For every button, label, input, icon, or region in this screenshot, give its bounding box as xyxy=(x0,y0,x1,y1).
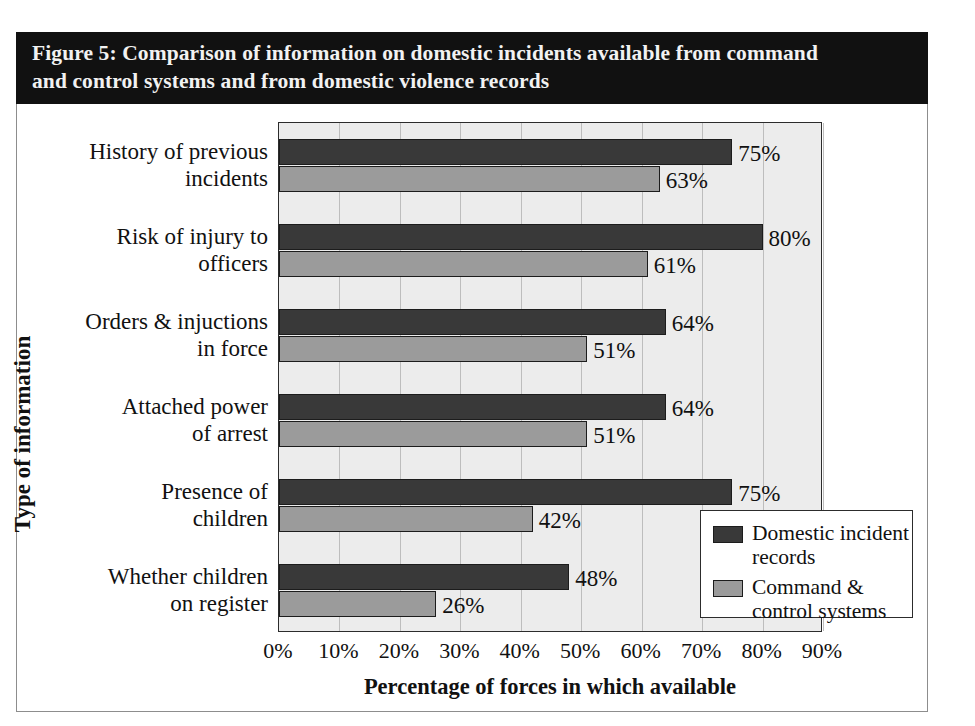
bar-value-label: 26% xyxy=(442,594,484,617)
gridline xyxy=(400,123,401,631)
bar-value-label: 63% xyxy=(666,169,708,192)
bar-value-label: 64% xyxy=(672,397,714,420)
bar-1 xyxy=(279,336,587,362)
legend-label: Command & control systems xyxy=(752,575,886,623)
bar-1 xyxy=(279,421,587,447)
legend-item: Domestic incident records xyxy=(713,521,912,569)
figure-root: Figure 5: Comparison of information on d… xyxy=(0,0,975,726)
legend-item: Command & control systems xyxy=(713,575,912,623)
bar-1 xyxy=(279,251,648,277)
y-axis-tick-label: History of previous incidents xyxy=(16,138,268,192)
bar-0 xyxy=(279,309,666,335)
bar-value-label: 64% xyxy=(672,312,714,335)
bar-value-label: 51% xyxy=(593,424,635,447)
y-axis-tick-label: Presence of children xyxy=(16,478,268,532)
chart-legend: Domestic incident records Command & cont… xyxy=(700,510,913,618)
y-axis-tick-label: Whether children on register xyxy=(16,563,268,617)
bar-0 xyxy=(279,394,666,420)
y-axis-tick-label: Risk of injury to officers xyxy=(16,223,268,277)
bar-0 xyxy=(279,139,732,165)
bar-value-label: 75% xyxy=(738,482,780,505)
x-axis-title: Percentage of forces in which available xyxy=(278,674,822,700)
bar-1 xyxy=(279,591,436,617)
y-axis-tick-label: Attached power of arrest xyxy=(16,393,268,447)
bar-value-label: 48% xyxy=(575,567,617,590)
bar-1 xyxy=(279,166,660,192)
bar-0 xyxy=(279,564,569,590)
figure-title: Figure 5: Comparison of information on d… xyxy=(32,39,912,95)
legend-swatch-icon xyxy=(713,526,743,543)
bar-0 xyxy=(279,224,763,250)
bar-value-label: 51% xyxy=(593,339,635,362)
bar-value-label: 80% xyxy=(769,227,811,250)
chart-area: Type of information 75%63%80%61%64%51%64… xyxy=(16,104,928,712)
legend-label: Domestic incident records xyxy=(752,521,909,569)
gridline xyxy=(581,123,582,631)
gridline xyxy=(339,123,340,631)
gridline xyxy=(642,123,643,631)
bar-value-label: 75% xyxy=(738,142,780,165)
legend-swatch-icon xyxy=(713,580,743,597)
bar-value-label: 42% xyxy=(539,509,581,532)
bar-value-label: 61% xyxy=(654,254,696,277)
bar-1 xyxy=(279,506,533,532)
y-axis-tick-label: Orders & injuctions in force xyxy=(16,308,268,362)
x-axis-tick-label: 90% xyxy=(787,638,857,664)
gridline xyxy=(521,123,522,631)
gridline xyxy=(460,123,461,631)
bar-0 xyxy=(279,479,732,505)
figure-title-banner: Figure 5: Comparison of information on d… xyxy=(16,32,928,104)
